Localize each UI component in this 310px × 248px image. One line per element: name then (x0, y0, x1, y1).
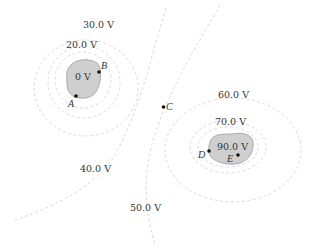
label-30v: 30.0 V (83, 20, 114, 30)
label-90v: 90.0 V (217, 142, 248, 152)
point-a-dot (74, 94, 78, 98)
point-c-dot (162, 105, 166, 109)
point-e-label: E (227, 154, 233, 164)
point-a-label: A (68, 99, 74, 109)
label-40v: 40.0 V (80, 164, 111, 174)
label-20v: 20.0 V (66, 40, 97, 50)
equipotential-diagram: 30.0 V 20.0 V 0 V 40.0 V 50.0 V 60.0 V 7… (0, 0, 310, 248)
label-50v: 50.0 V (130, 203, 161, 213)
label-0v: 0 V (75, 72, 91, 82)
label-70v: 70.0 V (215, 117, 246, 127)
point-d-dot (207, 149, 211, 153)
point-b-label: B (101, 61, 107, 71)
point-d-label: D (198, 150, 205, 160)
point-c-label: C (166, 102, 173, 112)
label-60v: 60.0 V (218, 90, 249, 100)
point-e-dot (236, 153, 240, 157)
